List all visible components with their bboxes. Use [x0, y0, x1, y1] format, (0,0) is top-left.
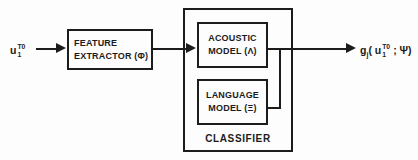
language-model-label-line1: LANGUAGE	[206, 89, 259, 102]
output-superscript: T0	[382, 43, 390, 50]
feature-to-classifier-arrowhead-icon	[186, 43, 196, 53]
output-open-paren: ( u	[368, 44, 381, 56]
acoustic-model-label-line2: MODEL (Λ)	[208, 45, 257, 58]
language-model-label-line2: MODEL (Ξ)	[208, 102, 256, 115]
acoustic-model-box: ACOUSTIC MODEL (Λ)	[197, 22, 268, 68]
input-arrowhead-icon	[56, 43, 66, 53]
feature-extractor-label-line2: EXTRACTOR (Φ)	[74, 50, 151, 63]
language-model-connector-vertical-line	[279, 49, 281, 109]
input-superscript: T0	[17, 43, 25, 50]
acoustic-model-label-line1: ACOUSTIC	[208, 32, 257, 45]
output-arrow-line	[268, 48, 347, 50]
input-subscript: 1	[17, 51, 21, 58]
feature-to-classifier-arrow-line	[153, 48, 187, 50]
feature-extractor-box: FEATURE EXTRACTOR (Φ)	[67, 29, 153, 70]
classifier-label: CLASSIFIER	[185, 133, 291, 144]
output-function-label: g j ( u T0 1 ; Ψ)	[360, 39, 412, 61]
output-arrowhead-icon	[346, 43, 356, 53]
output-subscript: 1	[382, 51, 386, 58]
input-sub-sup-stack: T0 1	[17, 43, 25, 58]
input-base: u	[10, 44, 16, 56]
output-base-subscript: j	[366, 51, 368, 58]
input-arrow-line	[36, 48, 57, 50]
language-model-box: LANGUAGE MODEL (Ξ)	[197, 79, 268, 125]
block-diagram: u T0 1 FEATURE EXTRACTOR (Φ) CLASSIFIER …	[0, 0, 418, 160]
output-close-paren: ; Ψ)	[393, 44, 411, 56]
output-sub-sup-stack: T0 1	[382, 43, 390, 58]
feature-extractor-label-line1: FEATURE	[74, 37, 151, 50]
input-signal-label: u T0 1	[10, 39, 25, 61]
